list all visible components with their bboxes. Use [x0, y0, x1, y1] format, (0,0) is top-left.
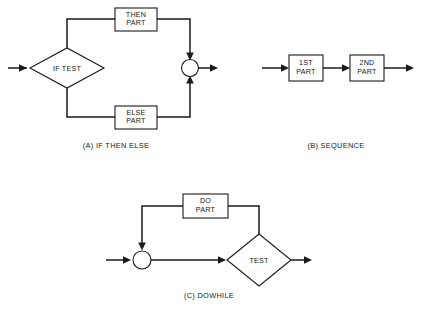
- entry-arrowhead-c: [123, 256, 131, 264]
- merge-junction-a: [182, 60, 199, 77]
- flowchart-figure: IF TEST THEN PART ELSE PART (A: [0, 0, 423, 312]
- caption-b: (B) SEQUENCE: [308, 141, 365, 150]
- first-part-label-line1: 1ST: [299, 58, 313, 67]
- junction-to-test-arrowhead: [218, 256, 226, 264]
- entry-arrowhead-b: [281, 64, 289, 72]
- flowchart-svg: IF TEST THEN PART ELSE PART (A: [0, 0, 423, 312]
- caption-a: (A) IF THEN ELSE: [83, 141, 149, 150]
- do-to-junction-line: [142, 206, 183, 248]
- second-part-label-line1: 2ND: [360, 58, 375, 67]
- do-part-label-line1: DO: [200, 196, 211, 205]
- exit-arrowhead-c: [304, 256, 312, 264]
- diagram-a-if-then-else: IF TEST THEN PART ELSE PART (A: [8, 8, 218, 150]
- do-junction-arrowhead: [138, 243, 146, 251]
- exit-arrowhead-a: [210, 64, 218, 72]
- else-part-label-line2: PART: [126, 116, 146, 125]
- diagram-c-dowhile: TEST DO PART (C) DOWHILE: [106, 194, 312, 300]
- then-part-label-line2: PART: [126, 18, 146, 27]
- else-branch-line: [67, 88, 115, 117]
- if-test-label: IF TEST: [53, 64, 81, 73]
- caption-c: (C) DOWHILE: [184, 291, 234, 300]
- entry-arrowhead-a: [19, 64, 27, 72]
- between-boxes-arrowhead-b: [342, 64, 350, 72]
- diagram-b-sequence: 1ST PART 2ND PART (B) SEQUENCE: [262, 55, 414, 150]
- second-part-label-line2: PART: [357, 67, 377, 76]
- test-to-do-line: [228, 206, 259, 234]
- exit-arrowhead-b: [406, 64, 414, 72]
- then-to-junction-line: [157, 19, 190, 58]
- do-part-label-line2: PART: [196, 205, 216, 214]
- first-part-label-line2: PART: [296, 67, 316, 76]
- then-branch-line: [67, 19, 115, 48]
- test-label: TEST: [249, 256, 269, 265]
- merge-junction-c: [133, 251, 151, 269]
- else-to-junction-line: [157, 78, 190, 117]
